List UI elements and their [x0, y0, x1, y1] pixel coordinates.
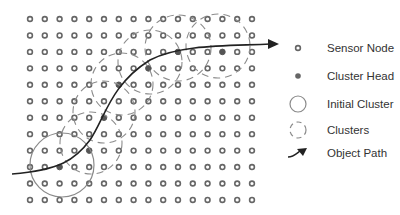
sensor-node: [250, 33, 255, 38]
sensor-node: [42, 198, 47, 203]
sensor-node: [87, 33, 92, 38]
sensor-node: [161, 198, 166, 203]
sensor-node: [72, 50, 77, 55]
sensor-node: [190, 115, 195, 120]
sensor-node: [250, 17, 255, 22]
sensor-node: [72, 181, 77, 186]
sensor-node: [161, 165, 166, 170]
sensor-node: [176, 115, 181, 120]
sensor-node: [72, 82, 77, 87]
sensor-node: [190, 148, 195, 153]
sensor-node: [161, 33, 166, 38]
initial-cluster-icon: [290, 96, 306, 112]
sensor-node: [250, 82, 255, 87]
sensor-node: [42, 148, 47, 153]
sensor-node: [42, 66, 47, 71]
sensor-node: [42, 33, 47, 38]
cluster-heads: [57, 49, 225, 170]
sensor-node: [146, 198, 151, 203]
sensor-node: [220, 82, 225, 87]
sensor-node: [57, 33, 62, 38]
legend-label-cluster-head: Cluster Head: [327, 69, 394, 83]
sensor-node: [28, 148, 33, 153]
legend-icons: [288, 46, 307, 157]
legend-label-clusters: Clusters: [327, 123, 369, 137]
sensor-node: [116, 66, 121, 71]
sensor-node: [205, 17, 210, 22]
arrow-head-icon: [268, 39, 279, 49]
sensor-node: [205, 82, 210, 87]
sensor-node: [28, 115, 33, 120]
sensor-node: [250, 165, 255, 170]
sensor-node: [87, 198, 92, 203]
sensor-node: [250, 132, 255, 137]
sensor-node: [102, 33, 107, 38]
sensor-node: [102, 148, 107, 153]
sensor-node: [235, 99, 240, 104]
object-path-icon: [288, 148, 307, 157]
sensor-node: [131, 165, 136, 170]
sensor-node-grid: [28, 17, 255, 203]
sensor-node: [220, 99, 225, 104]
sensor-node: [190, 198, 195, 203]
sensor-node: [87, 115, 92, 120]
sensor-node: [190, 33, 195, 38]
sensor-node: [250, 181, 255, 186]
sensor-node: [131, 50, 136, 55]
object-path: [12, 39, 279, 174]
sensor-node: [146, 115, 151, 120]
sensor-node: [205, 165, 210, 170]
sensor-node: [131, 148, 136, 153]
sensor-node: [250, 50, 255, 55]
sensor-node: [131, 17, 136, 22]
sensor-node: [57, 99, 62, 104]
sensor-node: [190, 99, 195, 104]
sensor-node: [250, 148, 255, 153]
sensor-node: [28, 17, 33, 22]
sensor-node: [28, 99, 33, 104]
sensor-node: [176, 165, 181, 170]
sensor-node: [176, 148, 181, 153]
sensor-node: [190, 82, 195, 87]
legend-label-object-path: Object Path: [327, 146, 387, 160]
sensor-node: [72, 66, 77, 71]
sensor-node: [205, 115, 210, 120]
sensor-node: [161, 99, 166, 104]
sensor-node: [205, 50, 210, 55]
sensor-node: [146, 50, 151, 55]
sensor-node: [87, 66, 92, 71]
sensor-node: [57, 198, 62, 203]
sensor-node: [87, 165, 92, 170]
sensor-node: [116, 115, 121, 120]
sensor-node: [57, 115, 62, 120]
sensor-node: [116, 99, 121, 104]
sensor-node: [28, 132, 33, 137]
sensor-node: [72, 17, 77, 22]
sensor-node: [176, 198, 181, 203]
sensor-node: [57, 82, 62, 87]
sensor-node: [146, 148, 151, 153]
sensor-node: [250, 198, 255, 203]
sensor-node: [42, 115, 47, 120]
sensor-node: [220, 115, 225, 120]
sensor-node: [250, 99, 255, 104]
sensor-node: [205, 148, 210, 153]
sensor-node: [235, 50, 240, 55]
cluster-head-icon: [295, 73, 301, 79]
sensor-node: [146, 165, 151, 170]
sensor-node: [220, 165, 225, 170]
sensor-node: [235, 148, 240, 153]
sensor-node: [87, 50, 92, 55]
sensor-node: [28, 82, 33, 87]
sensor-node: [205, 99, 210, 104]
sensor-node: [102, 99, 107, 104]
sensor-node: [205, 132, 210, 137]
sensor-node: [72, 33, 77, 38]
sensor-node: [190, 132, 195, 137]
sensor-node: [235, 82, 240, 87]
sensor-node: [235, 165, 240, 170]
sensor-node: [102, 50, 107, 55]
sensor-node: [116, 148, 121, 153]
sensor-node: [176, 181, 181, 186]
sensor-node: [220, 198, 225, 203]
